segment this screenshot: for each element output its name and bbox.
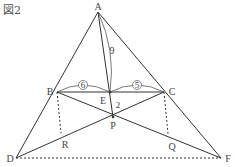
label-R: R: [62, 139, 69, 150]
label-F: F: [225, 153, 231, 164]
label-D: D: [6, 153, 13, 164]
segment-CQ: [164, 92, 168, 134]
segment-AF: [98, 12, 221, 158]
geometry-diagram: 6 5 9 2 A B C E P D F R Q: [0, 0, 236, 167]
label-E: E: [100, 95, 106, 106]
label-B: B: [47, 86, 54, 97]
segment-CD: [16, 92, 164, 158]
solid-lines: [16, 12, 221, 158]
label-A: A: [94, 1, 102, 12]
label-Q: Q: [168, 141, 176, 152]
segment-BR: [57, 92, 61, 133]
segment-BF: [57, 92, 221, 158]
label-P: P: [110, 120, 116, 131]
length-EP: 2: [116, 100, 121, 110]
length-EC: 5: [135, 80, 140, 90]
length-AE: 9: [110, 45, 115, 56]
label-C: C: [169, 86, 176, 97]
length-BE: 6: [81, 80, 86, 90]
